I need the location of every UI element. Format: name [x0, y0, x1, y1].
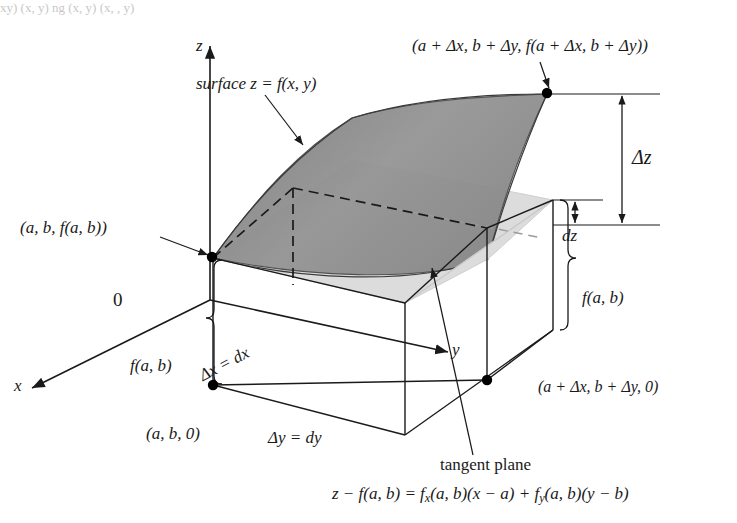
- f-ab-right-label: f(a, b): [582, 288, 624, 308]
- dz-label: dz: [562, 226, 577, 246]
- x-axis: [32, 300, 210, 388]
- point-far-label: (a + Δx, b + Δy, f(a + Δx, b + Δy)): [412, 36, 648, 56]
- delta-z-label: Δz: [632, 146, 652, 169]
- far-point-leader: [540, 62, 549, 88]
- near-point-leader: [160, 237, 208, 255]
- equation-term2-rest: (a, b)(y − b): [545, 484, 629, 503]
- equation-plus: +: [519, 484, 530, 503]
- tangent-equation: z − f(a, b) = fx(a, b)(x − a) + fy(a, b)…: [332, 484, 629, 506]
- origin-label: 0: [113, 289, 123, 311]
- tangent-plane-label: tangent plane: [440, 455, 531, 475]
- point-base-far: [482, 375, 492, 385]
- delta-y-label: Δy = dy: [268, 428, 322, 448]
- equation-term1-rest: (a, b)(x − a): [430, 484, 514, 503]
- figure-canvas: xy) (x, y) ng (x, y) (x, , y): [0, 0, 737, 523]
- point-near-label: (a, b, f(a, b)): [20, 218, 107, 238]
- point-far: [542, 88, 552, 98]
- equation-lhs: z − f(a, b) =: [332, 484, 416, 503]
- f-ab-left-label: f(a, b): [130, 356, 172, 376]
- tangent-plane-leader: [432, 268, 473, 455]
- surface-label: surface z = f(x, y): [196, 74, 317, 94]
- diagram-svg: [0, 0, 737, 523]
- brace-right: [560, 200, 576, 330]
- axis-label-y: y: [452, 340, 460, 360]
- point-base-label: (a, b, 0): [146, 424, 200, 444]
- point-near: [207, 252, 217, 262]
- axis-label-z: z: [196, 36, 203, 56]
- y-axis: [210, 300, 448, 352]
- surface-leader: [265, 95, 303, 145]
- point-base-far-label: (a + Δx, b + Δy, 0): [538, 378, 658, 396]
- axis-label-x: x: [14, 376, 22, 396]
